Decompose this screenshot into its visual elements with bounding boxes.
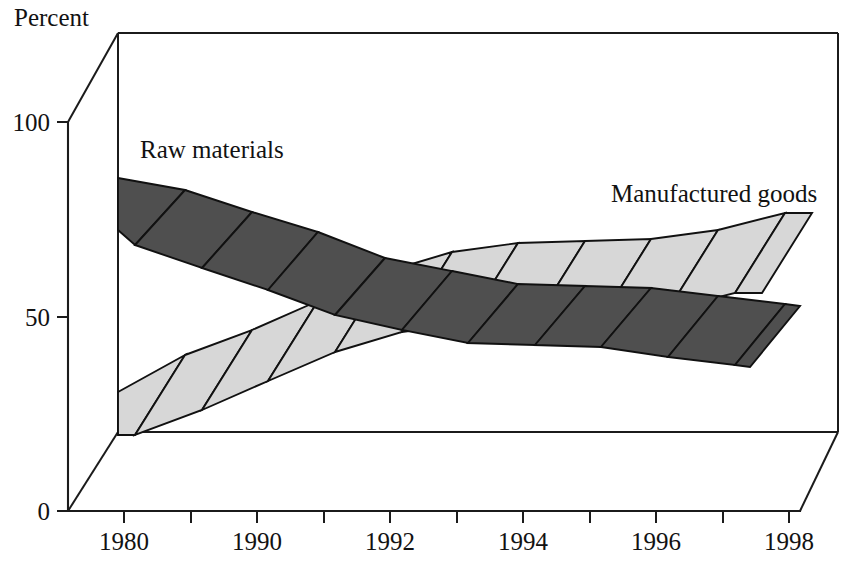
depth-edge-bottom-left — [68, 432, 118, 511]
x-tick-label-1996: 1996 — [631, 528, 681, 555]
ribbon-chart: Percent 100 50 0 1980 1990 1992 1994 199… — [0, 0, 863, 578]
depth-edge-top-left — [68, 33, 118, 122]
y-tick-label-50: 50 — [25, 304, 50, 331]
chart-figure: Percent 100 50 0 1980 1990 1992 1994 199… — [0, 0, 863, 578]
x-tick-label-1994: 1994 — [498, 528, 549, 555]
y-axis-unit-label: Percent — [14, 4, 89, 31]
x-tick-label-1992: 1992 — [365, 528, 415, 555]
x-tick-marks — [124, 511, 789, 523]
y-tick-label-100: 100 — [13, 109, 51, 136]
x-tick-label-1990: 1990 — [232, 528, 282, 555]
x-tick-label-1998: 1998 — [764, 528, 814, 555]
y-tick-label-0: 0 — [38, 498, 51, 525]
depth-edge-bottom-right — [800, 432, 838, 511]
series-annotation-manufactured-goods: Manufactured goods — [611, 180, 817, 207]
x-tick-label-1980: 1980 — [99, 528, 149, 555]
series-annotation-raw-materials: Raw materials — [140, 136, 284, 163]
